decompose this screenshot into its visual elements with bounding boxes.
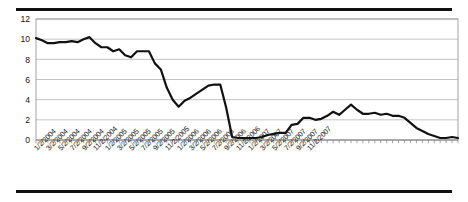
y-axis-tick-label: 2 — [25, 115, 30, 125]
chart-figure: 024681012 1/2/20043/2/20045/2/20047/2/20… — [0, 0, 468, 202]
top-rule-divider — [16, 8, 452, 11]
gridlines-group — [36, 19, 458, 140]
y-axis-tick-label: 10 — [20, 34, 30, 44]
y-axis-labels-group: 024681012 — [20, 14, 30, 145]
plot-area: 024681012 — [0, 14, 468, 146]
x-axis-labels: 1/2/20043/2/20045/2/20047/2/20049/2/2004… — [0, 144, 468, 188]
line-chart-svg: 024681012 — [0, 14, 468, 146]
y-axis-tick-label: 4 — [25, 95, 30, 105]
y-axis-tick-label: 12 — [20, 14, 30, 24]
data-series-line — [36, 37, 458, 138]
bottom-rule-divider — [16, 190, 452, 193]
y-axis-tick-label: 6 — [25, 75, 30, 85]
y-axis-tick-label: 8 — [25, 55, 30, 65]
